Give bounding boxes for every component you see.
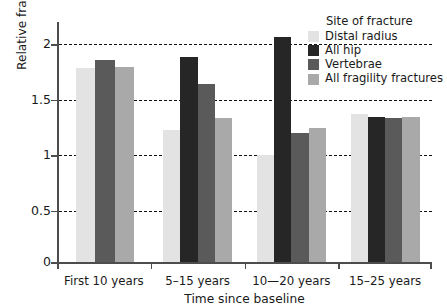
x-tick-0 bbox=[57, 262, 59, 269]
y-axis-title: Relative fracture risk per 1SD reduction… bbox=[15, 0, 29, 70]
y-tick-label-2.0: 2 bbox=[29, 38, 51, 51]
bar-3-vertebrae[interactable] bbox=[291, 133, 308, 262]
y-tick-0.5 bbox=[51, 211, 58, 213]
bar-1-vertebrae[interactable] bbox=[95, 60, 115, 262]
x-tick-label-0: First 10 years bbox=[57, 274, 151, 288]
legend-item-label: All fragility fractures bbox=[325, 73, 443, 85]
x-tick-4 bbox=[430, 262, 432, 269]
legend-title: Site of fracture bbox=[326, 14, 443, 28]
bar-2-all-hip[interactable] bbox=[180, 57, 197, 262]
x-tick-3 bbox=[338, 262, 340, 269]
x-tick-2 bbox=[245, 262, 247, 269]
legend-swatch-icon bbox=[308, 31, 319, 42]
legend-item[interactable]: All hip bbox=[308, 45, 443, 57]
y-tick-1.0 bbox=[51, 155, 58, 157]
bar-2-all-fragility-fractures[interactable] bbox=[215, 118, 232, 262]
x-tick-label-2: 10—20 years bbox=[245, 274, 339, 288]
y-tick-label-0: 0 bbox=[29, 256, 51, 269]
legend-swatch-icon bbox=[308, 45, 319, 56]
y-tick-label-1.0: 1 bbox=[29, 149, 51, 162]
chart-figure: 2 1.5 1 0.5 0 First 10 years 5–15 years … bbox=[0, 0, 447, 306]
bar-4-distal-radius[interactable] bbox=[351, 114, 368, 262]
bar-4-all-fragility-fractures[interactable] bbox=[402, 117, 419, 262]
y-tick-1.5 bbox=[51, 100, 58, 102]
bar-3-distal-radius[interactable] bbox=[257, 155, 274, 262]
y-tick-2.0 bbox=[51, 44, 58, 46]
bar-3-all-fragility-fractures[interactable] bbox=[309, 128, 326, 262]
legend-swatch-icon bbox=[308, 74, 319, 85]
legend-item-label: All hip bbox=[325, 45, 361, 57]
bar-1-distal-radius[interactable] bbox=[76, 68, 96, 262]
bar-4-all-hip[interactable] bbox=[368, 117, 385, 262]
x-tick-label-1: 5–15 years bbox=[151, 274, 245, 288]
bar-3-all-hip[interactable] bbox=[274, 37, 291, 262]
x-axis-title: Time since baseline bbox=[57, 292, 432, 306]
x-tick-1 bbox=[151, 262, 153, 269]
x-tick-label-3: 15–25 years bbox=[338, 274, 432, 288]
legend-item-label: Vertebrae bbox=[325, 59, 382, 71]
bar-2-vertebrae[interactable] bbox=[198, 84, 215, 262]
legend: Site of fracture Distal radiusAll hipVer… bbox=[308, 14, 443, 87]
y-axis-line bbox=[57, 22, 59, 266]
bar-1-all-fragility-fractures[interactable] bbox=[115, 67, 135, 262]
legend-item-label: Distal radius bbox=[325, 31, 398, 43]
legend-item[interactable]: Distal radius bbox=[308, 31, 443, 43]
legend-items: Distal radiusAll hipVertebraeAll fragili… bbox=[308, 31, 443, 85]
legend-swatch-icon bbox=[308, 59, 319, 70]
bar-2-distal-radius[interactable] bbox=[163, 130, 180, 262]
bar-4-vertebrae[interactable] bbox=[385, 118, 402, 262]
legend-item[interactable]: Vertebrae bbox=[308, 59, 443, 71]
y-tick-label-1.5: 1.5 bbox=[23, 94, 51, 107]
y-tick-label-0.5: 0.5 bbox=[23, 205, 51, 218]
legend-item[interactable]: All fragility fractures bbox=[308, 73, 443, 85]
